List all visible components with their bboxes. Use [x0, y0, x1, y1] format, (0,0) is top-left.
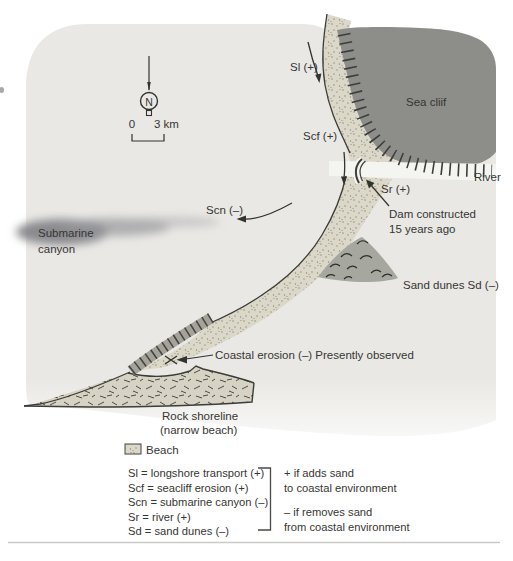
- scale-zero-label: 0: [129, 118, 135, 130]
- label-coastal-erosion: Coastal erosion (–) Presently observed: [215, 349, 414, 361]
- label-submarine-canyon-line1: Submarine: [38, 227, 94, 239]
- legend-minus-note-line2: from coastal environment: [284, 521, 410, 533]
- label-dam-line2: 15 years ago: [389, 223, 456, 235]
- label-submarine-canyon-line2: canyon: [38, 243, 75, 255]
- label-seacliff-erosion: Scf (+): [303, 130, 337, 142]
- legend: Beach Sl = longshore transport (+) Scf =…: [125, 444, 410, 537]
- legend-item-sr: Sr = river (+): [128, 511, 191, 523]
- legend-plus-note-line2: to coastal environment: [284, 482, 397, 494]
- label-sea-cliff: Sea cliif: [406, 96, 447, 108]
- scale-distance-label: 3 km: [154, 118, 179, 130]
- label-river: River: [474, 171, 501, 183]
- legend-item-sd: Sd = sand dunes (–): [128, 525, 229, 537]
- legend-plus-note-line1: + if adds sand: [284, 467, 354, 479]
- legend-item-scf: Scf = seacliff erosion (+): [128, 482, 249, 494]
- compass-north-label: N: [145, 96, 153, 108]
- label-submarine-canyon-flux: Scn (–): [206, 204, 243, 216]
- label-rock-shoreline-line2: (narrow beach): [160, 424, 238, 436]
- beach-swatch: [125, 444, 141, 454]
- label-rock-shoreline-line1: Rock shoreline: [162, 410, 238, 422]
- legend-item-sl: Sl = longshore transport (+): [128, 467, 264, 479]
- label-sand-dunes: Sand dunes Sd (–): [403, 279, 499, 291]
- page-edge-artifact: [0, 87, 4, 93]
- label-river-input: Sr (+): [381, 183, 410, 195]
- label-dam-line1: Dam constructed: [389, 208, 476, 220]
- legend-minus-note-line1: – if removes sand: [284, 506, 372, 518]
- label-longshore: Sl (+): [290, 61, 318, 73]
- textbook-figure-page: N 0 3 km Sl (+) Scf (+) Sea cliif River …: [0, 0, 513, 561]
- coastal-sand-budget-diagram: N 0 3 km Sl (+) Scf (+) Sea cliif River …: [0, 0, 513, 561]
- legend-item-scn: Scn = submarine canyon (–): [128, 496, 269, 508]
- legend-beach-label: Beach: [146, 444, 179, 456]
